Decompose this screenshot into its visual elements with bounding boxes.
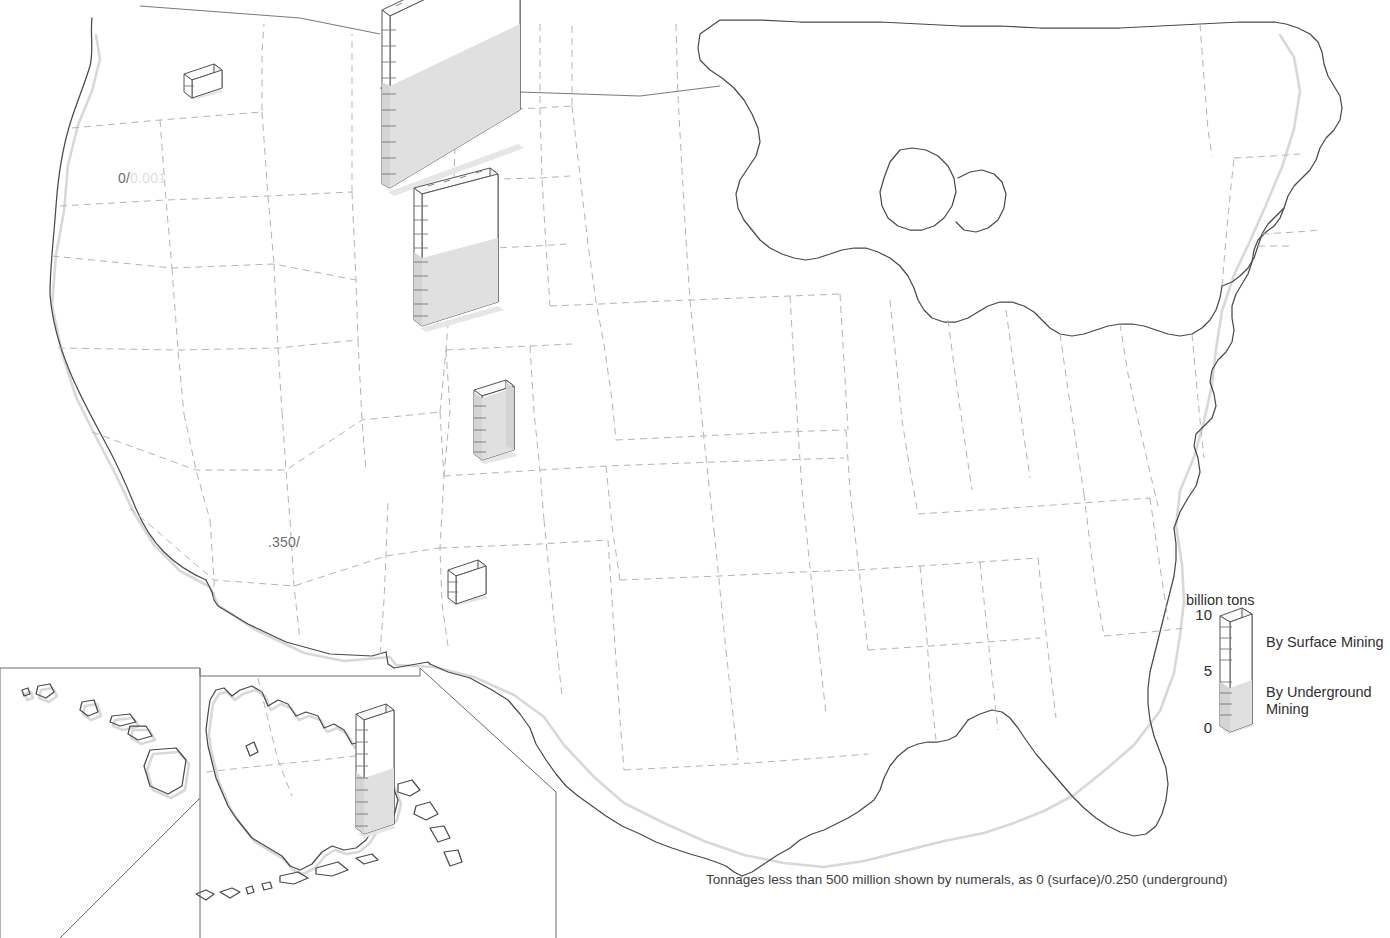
figure-caption: Tonnages less than 500 million shown by …	[706, 872, 1228, 887]
us-coastline	[50, 18, 1342, 876]
bar-wyoming	[408, 166, 518, 341]
map-shadow	[52, 35, 1300, 867]
legend-bar	[1216, 606, 1264, 744]
numeral-surface: .350	[268, 534, 296, 550]
legend-axis-max: 10	[1186, 606, 1212, 623]
numeral-surface: 0	[118, 170, 126, 186]
us-map	[0, 0, 1390, 938]
numeral-underground: 0.001	[130, 170, 166, 186]
state-boundaries	[52, 24, 1320, 770]
legend: billion tons 10 5 0 By Surfac	[1182, 592, 1390, 752]
alaska	[196, 678, 462, 900]
bar-colorado-utah	[468, 374, 530, 474]
legend-axis-min: 0	[1186, 719, 1212, 736]
map-figure: 0/0.001 .350/ billion tons 10 5 0	[0, 0, 1390, 938]
hawaii-islands	[22, 684, 189, 798]
numeral-label-arizona: .350/	[268, 534, 300, 550]
legend-surface-label: By Surface Mining	[1266, 634, 1384, 650]
numeral-label-nevada: 0/0.001	[118, 170, 166, 186]
legend-axis-mid: 5	[1186, 662, 1212, 679]
bar-washington	[180, 60, 236, 108]
bar-alaska	[350, 698, 410, 848]
bar-texas	[442, 556, 500, 614]
legend-underground-label: By Underground Mining	[1266, 684, 1372, 717]
numeral-separator: /	[296, 534, 300, 550]
